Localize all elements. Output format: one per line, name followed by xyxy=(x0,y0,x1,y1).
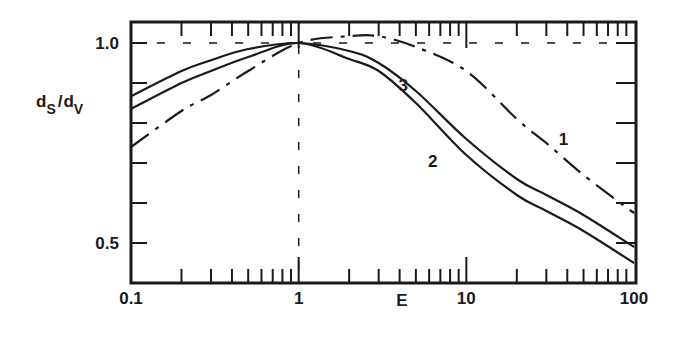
curve-label-1: 1 xyxy=(559,130,568,149)
svg-text:dS/dV: dS/dV xyxy=(36,92,84,117)
y-axis-title-sep: / xyxy=(58,92,63,111)
chart: 0.1110100 1.00.5 123 E dS/dV xyxy=(0,0,689,350)
y-axis-title-sub1: S xyxy=(46,101,55,117)
y-axis-title: dS/dV xyxy=(36,92,84,117)
curve-labels: 123 xyxy=(398,76,568,171)
y-axis-title-main: d xyxy=(36,92,46,111)
x-tick-label: 0.1 xyxy=(119,289,143,308)
curve-label-2: 2 xyxy=(428,152,437,171)
x-tick-label: 100 xyxy=(620,289,648,308)
curve-2 xyxy=(131,43,634,263)
y-axis-ticks: 1.00.5 xyxy=(95,34,636,253)
y-tick-label: 0.5 xyxy=(95,234,119,253)
x-tick-label: 10 xyxy=(457,289,476,308)
y-tick-label: 1.0 xyxy=(95,34,119,53)
y-axis-title-sub2: V xyxy=(74,101,84,117)
x-axis-title: E xyxy=(396,291,407,310)
y-axis-title-main2: d xyxy=(63,92,73,111)
curve-label-3: 3 xyxy=(398,76,407,95)
curves xyxy=(131,35,634,263)
x-tick-label: 1 xyxy=(294,289,303,308)
